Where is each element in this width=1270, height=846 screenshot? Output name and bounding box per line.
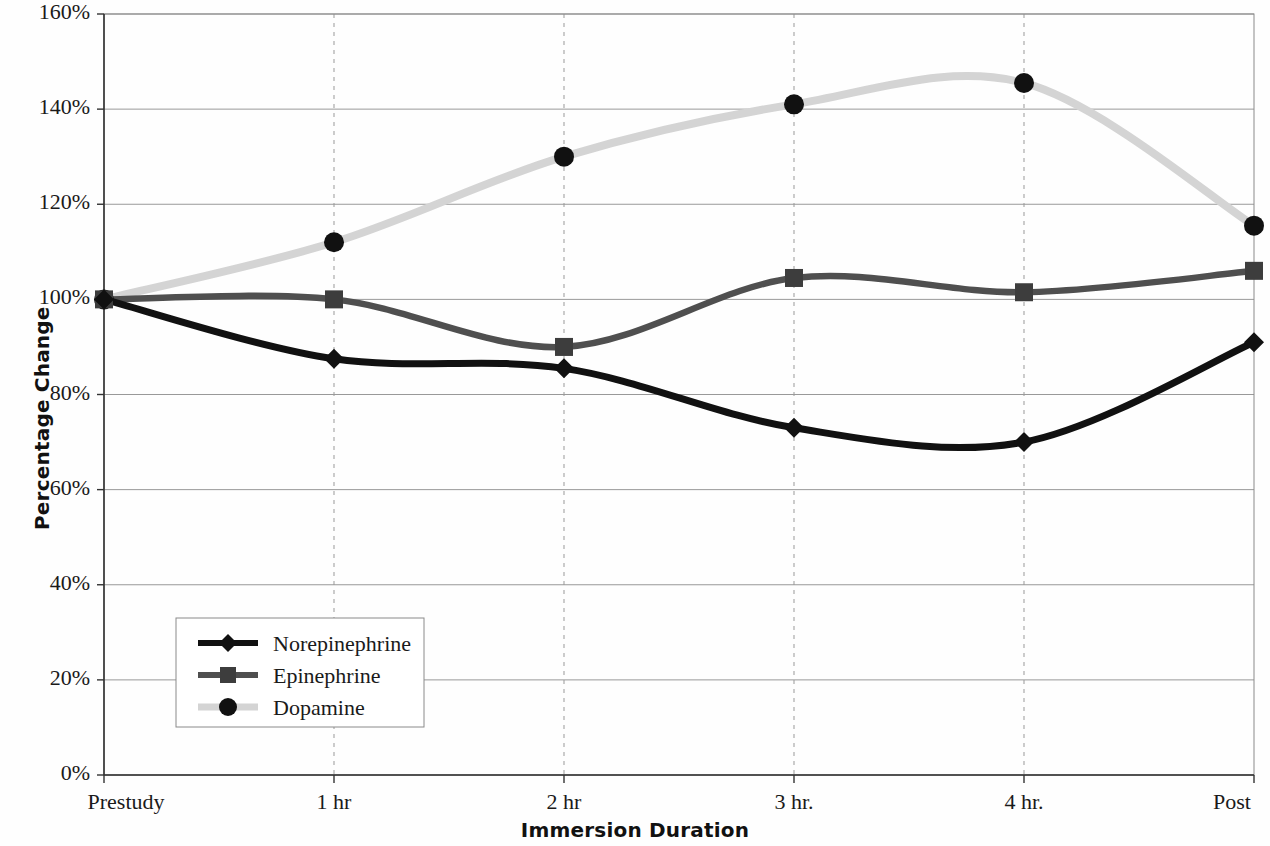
data-point-norepinephrine-2 (554, 358, 574, 378)
legend-marker-circle (219, 698, 237, 716)
legend-marker-square (220, 667, 236, 683)
data-point-epinephrine-5 (1245, 262, 1263, 280)
data-point-dopamine-5 (1244, 216, 1264, 236)
data-point-dopamine-3 (784, 94, 804, 114)
y-tick-label: 160% (0, 0, 90, 25)
y-tick-label: 100% (0, 284, 90, 310)
chart-legend: NorepinephrineEpinephrineDopamine (176, 618, 424, 727)
data-point-norepinephrine-1 (324, 349, 344, 369)
series-line-epinephrine (104, 271, 1254, 347)
data-point-epinephrine-3 (785, 269, 803, 287)
y-tick-label: 40% (0, 570, 90, 596)
y-tick-label: 0% (0, 760, 90, 786)
y-tick-label: 140% (0, 94, 90, 120)
x-tick-label: 1 hr (234, 789, 434, 815)
x-tick-label: 3 hr. (694, 789, 894, 815)
data-point-epinephrine-2 (555, 338, 573, 356)
y-tick-label: 20% (0, 665, 90, 691)
x-tick-label: 2 hr (464, 789, 664, 815)
legend-label-epinephrine: Epinephrine (273, 663, 381, 688)
x-tick-label: Prestudy (26, 789, 226, 815)
data-point-dopamine-4 (1014, 73, 1034, 93)
data-point-norepinephrine-4 (1014, 432, 1034, 452)
data-point-dopamine-1 (324, 232, 344, 252)
chart-container: NorepinephrineEpinephrineDopamine Percen… (0, 0, 1270, 846)
x-tick-label: Post (1132, 789, 1270, 815)
data-point-epinephrine-1 (325, 290, 343, 308)
series-line-norepinephrine (104, 299, 1254, 447)
x-tick-label: 4 hr. (924, 789, 1124, 815)
line-chart-canvas: NorepinephrineEpinephrineDopamine (0, 0, 1270, 846)
y-tick-label: 80% (0, 380, 90, 406)
data-point-norepinephrine-3 (784, 418, 804, 438)
data-point-epinephrine-4 (1015, 283, 1033, 301)
legend-label-norepinephrine: Norepinephrine (273, 631, 411, 656)
data-point-dopamine-2 (554, 147, 574, 167)
y-tick-label: 120% (0, 189, 90, 215)
y-tick-label: 60% (0, 475, 90, 501)
series-lines (104, 76, 1254, 448)
legend-label-dopamine: Dopamine (273, 695, 365, 720)
x-axis-title: Immersion Duration (0, 818, 1270, 842)
